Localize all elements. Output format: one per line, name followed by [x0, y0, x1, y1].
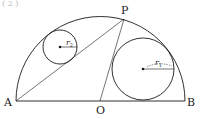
cut-off-header-text: ( 2 ) [2, 0, 18, 8]
point-label-a: A [3, 96, 13, 109]
semicircle-arc [16, 16, 185, 101]
geometry-figure: ( 2 ) r2 r1 A B O P [0, 0, 202, 119]
chord-ap [16, 19, 124, 101]
radius-r1-label: r1 [155, 58, 162, 68]
point-label-b: B [187, 96, 195, 109]
point-label-o: O [96, 104, 105, 117]
radius-r2-label: r2 [66, 38, 73, 48]
point-label-p: P [121, 4, 129, 17]
segment-op [100, 19, 124, 101]
